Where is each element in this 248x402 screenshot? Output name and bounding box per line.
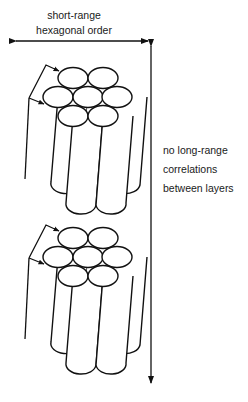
cylinder-bundle-top — [25, 65, 147, 214]
top-label-line-1: short-range — [0, 8, 148, 23]
side-label-line-3: between layers — [163, 179, 234, 198]
cylinder-bundle-bottom — [25, 225, 147, 374]
columnar-phase-diagram — [0, 0, 248, 402]
short-range-order-label: short-range hexagonal order — [0, 8, 148, 38]
side-label-line-2: correlations — [163, 160, 234, 179]
top-label-line-2: hexagonal order — [0, 23, 148, 38]
no-long-range-label: no long-range correlations between layer… — [163, 141, 234, 198]
side-label-line-1: no long-range — [163, 141, 234, 160]
